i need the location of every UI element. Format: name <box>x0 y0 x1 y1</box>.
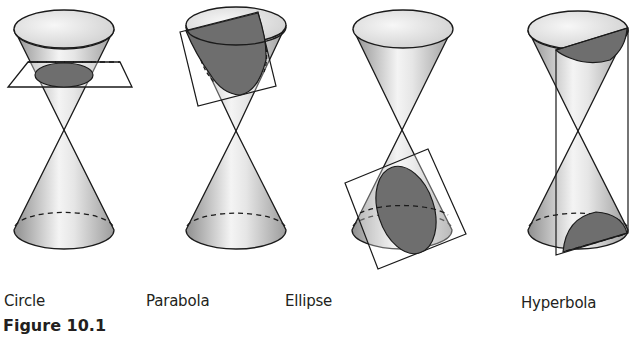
conic-sections-diagram <box>0 0 629 337</box>
figure-caption: Figure 10.1 <box>3 316 106 335</box>
lower-nappe <box>14 130 114 249</box>
label-circle: Circle <box>4 292 45 310</box>
label-ellipse: Ellipse <box>285 292 332 310</box>
label-parabola: Parabola <box>146 292 209 310</box>
upper-rim <box>353 10 453 48</box>
upper-rim <box>14 10 114 48</box>
hyperbola-panel <box>528 11 628 255</box>
ellipse-panel <box>345 10 466 269</box>
label-hyperbola: Hyperbola <box>521 294 596 312</box>
circle-panel <box>8 10 132 249</box>
circle-section <box>35 63 93 87</box>
parabola-panel <box>180 7 286 249</box>
lower-nappe <box>186 131 286 249</box>
